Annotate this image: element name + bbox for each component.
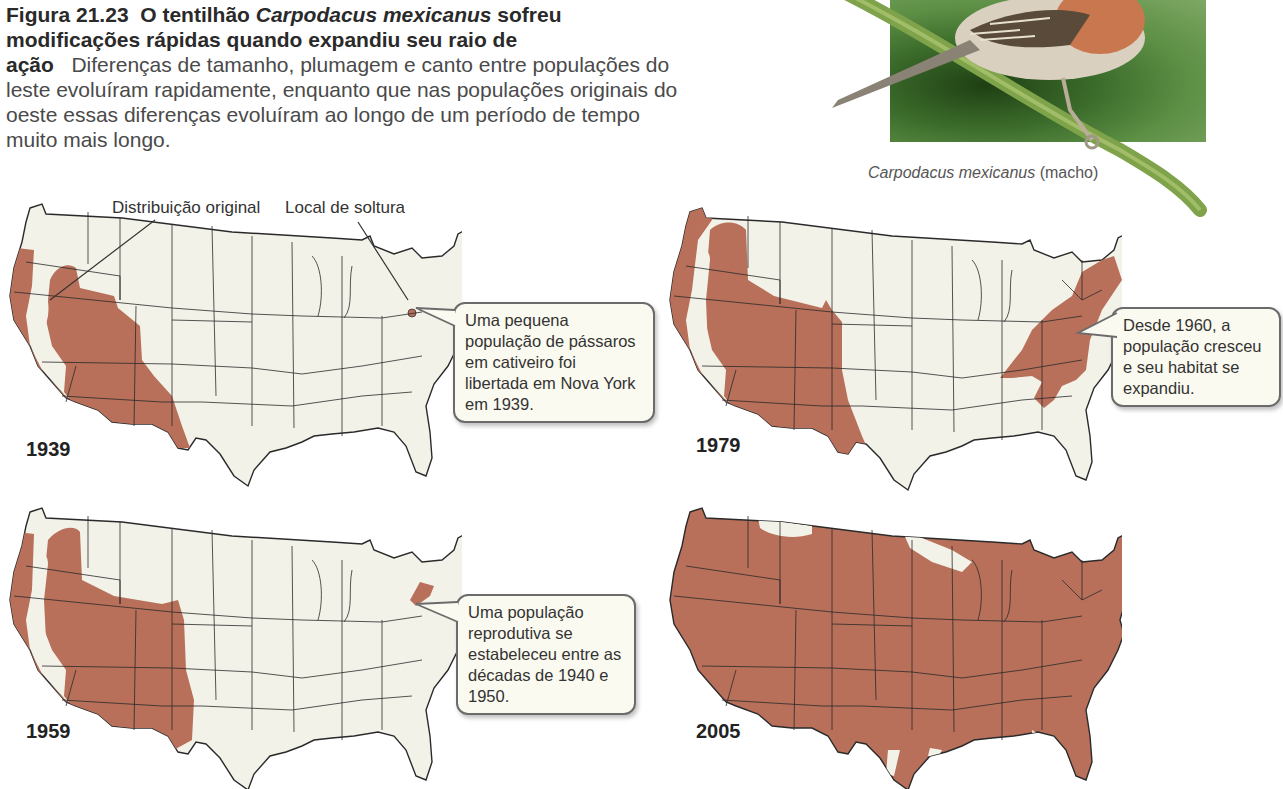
map-1959 [2,500,462,789]
callout-1959: Uma população reprodutiva se estabeleceu… [456,594,636,715]
callout-1939: Uma pequena população de pássaros em cat… [453,302,655,423]
label-release-site: Local de soltura [285,198,405,218]
callout-1979: Desde 1960, a população cresceu e seu ha… [1111,307,1281,407]
photo-caption-species: Carpodacus mexicanus [868,164,1035,181]
year-label-1979: 1979 [696,434,741,457]
year-label-2005: 2005 [696,720,741,743]
figure-number: Figura 21.23 [6,3,129,26]
photo-caption-sex: (macho) [1040,164,1099,181]
figure-title-species: Carpodacus mexicanus [256,3,492,26]
map-1939 [2,196,462,496]
label-original-distribution: Distribuição original [112,198,260,218]
year-label-1959: 1959 [26,720,71,743]
year-label-1939: 1939 [26,438,71,461]
photo-caption: Carpodacus mexicanus (macho) [868,164,1098,182]
figure-body: Diferenças de tamanho, plumagem e canto … [6,53,677,151]
bird-photo [890,0,1206,142]
figure-caption: Figura 21.23 O tentilhão Carpodacus mexi… [6,2,686,152]
figure-title-part1: O tentilhão [140,3,256,26]
map-2005 [662,500,1122,789]
